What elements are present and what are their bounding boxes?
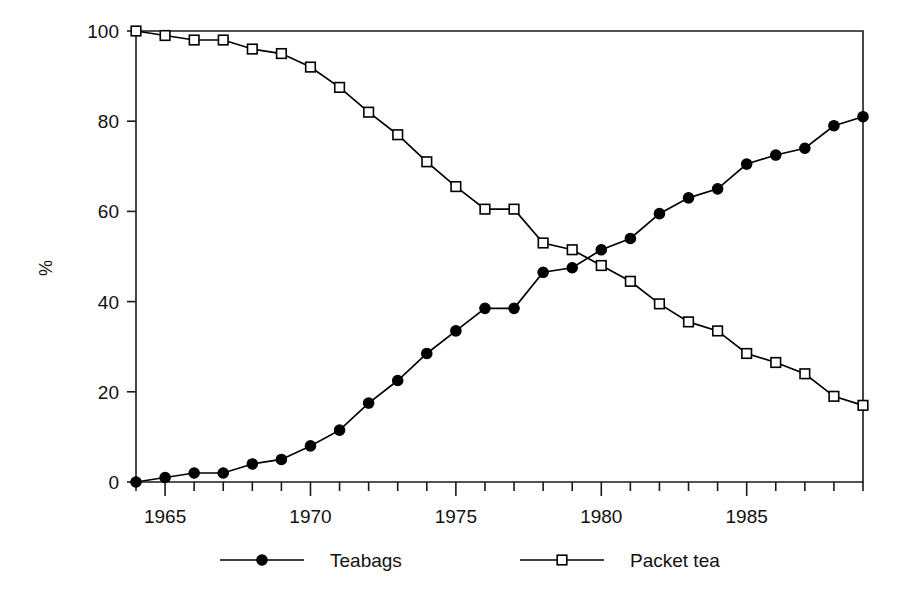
data-point	[538, 238, 548, 248]
data-point	[509, 303, 519, 313]
data-point	[509, 204, 519, 214]
data-point	[655, 299, 665, 309]
data-point	[626, 277, 636, 287]
data-point	[829, 121, 839, 131]
x-axis-ticks	[136, 482, 863, 496]
data-point	[829, 392, 839, 402]
x-axis-tick-labels: 19651970197519801985	[144, 506, 768, 527]
data-point	[334, 425, 344, 435]
data-point	[451, 182, 461, 192]
data-point	[131, 26, 141, 36]
data-point	[800, 369, 810, 379]
y-axis-tick-labels: 020406080100	[87, 21, 119, 493]
legend-item-teabags[interactable]: Teabags	[220, 550, 402, 571]
series-line	[136, 31, 863, 405]
data-point	[422, 157, 432, 167]
data-point	[480, 204, 490, 214]
legend-marker-open-square-icon	[557, 555, 567, 565]
series-packet-tea	[131, 26, 868, 410]
data-point	[480, 303, 490, 313]
data-point	[276, 454, 286, 464]
data-point	[712, 184, 722, 194]
data-point	[684, 317, 694, 327]
x-tick-label: 1970	[289, 506, 331, 527]
data-point	[596, 245, 606, 255]
plot-frame	[136, 31, 863, 482]
data-point	[393, 375, 403, 385]
x-tick-label: 1975	[435, 506, 477, 527]
chart-legend: TeabagsPacket tea	[220, 550, 720, 571]
data-point	[567, 263, 577, 273]
series-teabags	[131, 111, 868, 487]
data-point	[218, 468, 228, 478]
data-point	[625, 233, 635, 243]
data-point	[363, 398, 373, 408]
data-point	[596, 261, 606, 271]
data-point	[218, 35, 228, 45]
data-point	[393, 130, 403, 140]
legend-marker-filled-circle-icon	[257, 555, 267, 565]
legend-label: Packet tea	[630, 550, 720, 571]
y-tick-label: 60	[98, 201, 119, 222]
data-point	[364, 107, 374, 117]
y-tick-label: 80	[98, 111, 119, 132]
x-tick-label: 1985	[726, 506, 768, 527]
data-point	[713, 326, 723, 336]
data-point	[189, 35, 199, 45]
data-point	[189, 468, 199, 478]
y-tick-label: 40	[98, 292, 119, 313]
series-layer	[131, 26, 868, 487]
data-point	[422, 348, 432, 358]
legend-label: Teabags	[330, 550, 402, 571]
data-point	[567, 245, 577, 255]
data-point	[160, 31, 170, 41]
x-tick-label: 1980	[580, 506, 622, 527]
data-point	[800, 143, 810, 153]
data-point	[131, 477, 141, 487]
data-point	[771, 358, 781, 368]
data-point	[247, 459, 257, 469]
data-point	[858, 401, 868, 411]
legend-item-packet-tea[interactable]: Packet tea	[520, 550, 720, 571]
data-point	[538, 267, 548, 277]
data-point	[160, 472, 170, 482]
data-point	[771, 150, 781, 160]
data-point	[683, 193, 693, 203]
line-chart: 020406080100 % 19651970197519801985 Teab…	[0, 0, 903, 599]
data-point	[306, 62, 316, 72]
y-axis-title: %	[36, 260, 56, 276]
x-tick-label: 1965	[144, 506, 186, 527]
chart-container: 020406080100 % 19651970197519801985 Teab…	[0, 0, 903, 599]
data-point	[858, 111, 868, 121]
y-tick-label: 100	[87, 21, 119, 42]
data-point	[248, 44, 258, 54]
data-point	[742, 349, 752, 359]
data-point	[654, 208, 664, 218]
data-point	[741, 159, 751, 169]
data-point	[305, 441, 315, 451]
data-point	[277, 49, 287, 59]
y-tick-label: 20	[98, 382, 119, 403]
y-tick-label: 0	[108, 472, 119, 493]
data-point	[335, 83, 345, 93]
y-axis-ticks	[127, 31, 136, 482]
data-point	[451, 326, 461, 336]
series-line	[136, 117, 863, 482]
